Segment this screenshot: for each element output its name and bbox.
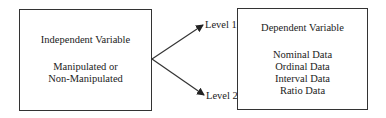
- dv-type-ratio: Ratio Data: [238, 85, 367, 97]
- iv-line-1: Manipulated or: [20, 61, 151, 73]
- independent-variable-box: Independent Variable Manipulated or Non-…: [19, 9, 152, 111]
- arrow-to-level-1: [152, 25, 203, 59]
- independent-variable-title: Independent Variable: [20, 34, 151, 45]
- dv-type-interval: Interval Data: [238, 73, 367, 85]
- iv-line-2: Non-Manipulated: [20, 73, 151, 85]
- level-1-label: Level 1: [205, 19, 237, 30]
- dv-type-nominal: Nominal Data: [238, 49, 367, 61]
- dv-type-ordinal: Ordinal Data: [238, 61, 367, 73]
- dependent-variable-title: Dependent Variable: [238, 22, 367, 33]
- dependent-variable-box: Dependent Variable Nominal Data Ordinal …: [237, 8, 368, 110]
- level-2-label: Level 2: [206, 90, 238, 101]
- arrow-to-level-2: [152, 59, 204, 95]
